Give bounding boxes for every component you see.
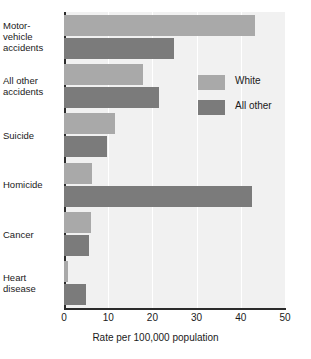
legend-item: White — [198, 73, 288, 98]
category-label-line: disease — [3, 283, 63, 294]
bar — [64, 261, 68, 282]
bar — [64, 113, 115, 134]
bar — [64, 87, 159, 108]
bar — [64, 136, 107, 157]
bar — [64, 284, 86, 305]
bar-chart: Motor-vehicleaccidentsAll otheraccidents… — [0, 0, 311, 359]
category-label-line: accidents — [3, 42, 63, 53]
x-axis-title: Rate per 100,000 population — [0, 332, 311, 343]
x-tick-label: 30 — [191, 312, 202, 323]
x-tick-label: 10 — [103, 312, 114, 323]
category-label: Heartdisease — [3, 272, 63, 294]
category-label-line: accidents — [3, 86, 63, 97]
legend-swatch — [198, 75, 225, 90]
category-label: Homicide — [3, 179, 63, 190]
bar — [64, 15, 255, 36]
bar — [64, 235, 89, 256]
category-label-line: vehicle — [3, 31, 63, 42]
gridline — [197, 12, 198, 308]
legend: WhiteAll other — [198, 73, 288, 123]
category-label-line: All other — [3, 75, 63, 86]
category-label: All otheraccidents — [3, 75, 63, 97]
bar — [64, 186, 252, 207]
bar — [64, 212, 91, 233]
x-tick-label: 40 — [235, 312, 246, 323]
x-tick-label: 20 — [147, 312, 158, 323]
category-label-line: Homicide — [3, 179, 63, 190]
category-label: Motor-vehicleaccidents — [3, 20, 63, 53]
bar — [64, 163, 92, 184]
category-label-line: Motor- — [3, 20, 63, 31]
bar — [64, 38, 174, 59]
legend-swatch — [198, 100, 225, 115]
category-label-line: Cancer — [3, 229, 63, 240]
category-label-line: Suicide — [3, 130, 63, 141]
category-label-line: Heart — [3, 272, 63, 283]
gridline — [285, 12, 286, 308]
legend-item: All other — [198, 98, 288, 123]
x-tick-label: 0 — [61, 312, 67, 323]
legend-label: White — [235, 75, 261, 86]
legend-label: All other — [235, 100, 272, 111]
category-label: Suicide — [3, 130, 63, 141]
gridline — [241, 12, 242, 308]
category-label: Cancer — [3, 229, 63, 240]
x-axis-line — [64, 308, 286, 310]
x-tick-label: 50 — [279, 312, 290, 323]
bar — [64, 64, 143, 85]
